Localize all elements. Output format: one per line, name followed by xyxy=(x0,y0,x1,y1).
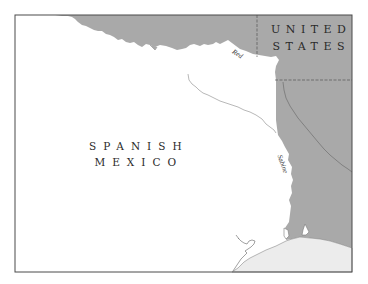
states-label: STATES xyxy=(271,38,351,55)
historical-map: SPANISH MEXICO UNITED STATES Red Sabine xyxy=(0,0,368,284)
mexico-label: MEXICO xyxy=(89,154,189,170)
united-label: UNITED xyxy=(271,21,351,38)
spanish-mexico-label: SPANISH MEXICO xyxy=(89,138,189,170)
united-states-label: UNITED STATES xyxy=(271,21,351,55)
spanish-label: SPANISH xyxy=(89,138,189,154)
